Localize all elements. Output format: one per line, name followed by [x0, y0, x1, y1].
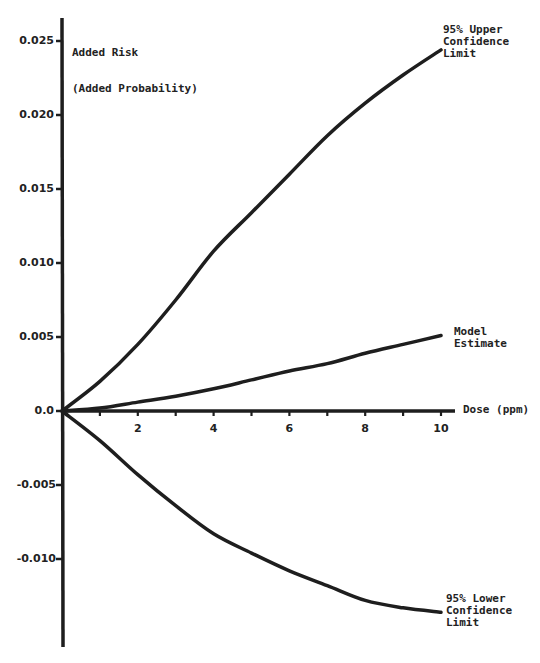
y-axis-title-line1: Added Risk: [72, 47, 198, 59]
x-tick-label: 2: [128, 422, 148, 435]
y-axis-title: Added Risk (Added Probability): [72, 23, 198, 107]
y-tick-label: -0.005: [2, 478, 56, 491]
x-tick-label: 6: [279, 422, 299, 435]
upper-limit-label: 95% Upper Confidence Limit: [443, 24, 509, 60]
model-estimate-label: Model Estimate: [454, 326, 507, 350]
y-tick-label: 0.010: [0, 256, 54, 269]
x-tick-label: 10: [431, 422, 451, 435]
x-tick-label: 4: [204, 422, 224, 435]
axes: [56, 18, 455, 647]
y-tick-label: 0.020: [0, 108, 54, 121]
x-tick-label: 8: [355, 422, 375, 435]
data-lines: [62, 50, 441, 612]
model-estimate-line: [62, 336, 441, 411]
y-axis-title-line2: (Added Probability): [72, 83, 198, 95]
lower-limit-label: 95% Lower Confidence Limit: [446, 593, 512, 629]
y-tick-label: 0.005: [0, 330, 54, 343]
y-tick-label: 0.0: [0, 404, 54, 417]
lower-limit-line: [62, 411, 441, 612]
y-tick-label: -0.010: [2, 552, 56, 565]
y-axis: [62, 18, 63, 647]
y-tick-label: 0.015: [0, 182, 54, 195]
x-axis-title: Dose (ppm): [463, 404, 529, 416]
y-tick-label: 0.025: [0, 34, 54, 47]
